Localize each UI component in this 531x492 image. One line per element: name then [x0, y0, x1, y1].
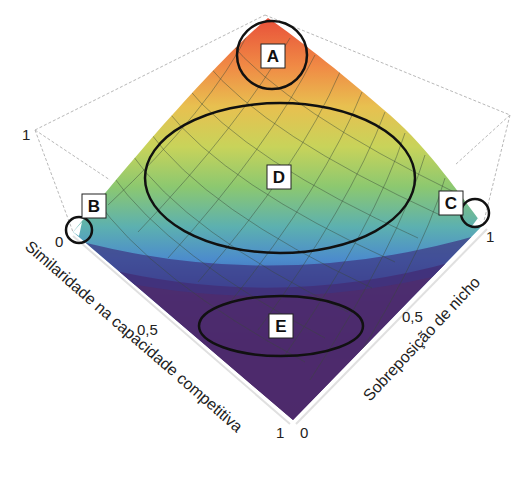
surface-plot: A D E B C 1 0 0,5 1 0 0,5 1 Similaridade… [0, 0, 531, 492]
z-tick-0: 0 [55, 233, 63, 250]
label-B: B [88, 197, 100, 216]
surface [40, 0, 520, 470]
y-tick-0: 0 [300, 424, 308, 441]
z-tick-1: 1 [22, 126, 30, 143]
caption-partial [0, 478, 531, 492]
label-D: D [273, 168, 285, 187]
label-E: E [275, 317, 286, 336]
label-A: A [267, 47, 279, 66]
label-C: C [445, 194, 457, 213]
x-tick-1: 1 [276, 424, 284, 441]
y-tick-05: 0,5 [402, 308, 423, 325]
y-tick-1: 1 [486, 228, 494, 245]
